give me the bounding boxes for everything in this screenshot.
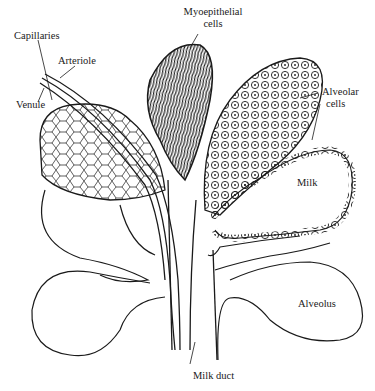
label-milk: Milk (297, 177, 317, 189)
label-alveolus: Alveolus (298, 298, 336, 310)
label-arteriole: Arteriole (58, 55, 96, 67)
label-venule: Venule (16, 99, 45, 111)
empty-alveolus-lower-left (32, 271, 165, 356)
empty-alveolus-upper-left (42, 190, 155, 282)
label-myoepithelial-line2: cells (178, 18, 248, 30)
label-alveolar-line2: cells (322, 98, 359, 110)
capillary-alveolus (40, 104, 165, 200)
label-myoepithelial-line1: Myoepithelial (178, 6, 248, 18)
label-alveolar-line1: Alveolar (322, 86, 359, 98)
label-alveolar-cells: Alveolar cells (322, 86, 359, 110)
label-capillaries: Capillaries (14, 30, 60, 42)
alveoli-diagram (0, 0, 375, 391)
alveolar-cells-alveolus (204, 58, 322, 215)
empty-alveolus-lower-right (215, 243, 363, 360)
label-myoepithelial-cells: Myoepithelial cells (178, 6, 248, 30)
label-milk-duct: Milk duct (193, 370, 234, 382)
